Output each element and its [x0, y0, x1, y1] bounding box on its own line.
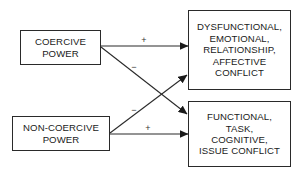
node-label-line: CONFLICT — [215, 67, 264, 78]
node-label-line: NON-COERCIVE — [23, 122, 99, 133]
node-label-line: ISSUE CONFLICT — [199, 145, 280, 156]
node-dysfunctional-conflict: DYSFUNCTIONAL, EMOTIONAL, RELATIONSHIP, … — [188, 10, 291, 90]
node-coercive-power: COERCIVE POWER — [20, 30, 101, 65]
node-label-line: TASK, — [226, 123, 254, 134]
node-label-line: AFFECTIVE — [213, 56, 267, 67]
node-functional-conflict: FUNCTIONAL, TASK, COGNITIVE, ISSUE CONFL… — [188, 101, 291, 167]
node-label-line: EMOTIONAL, — [209, 33, 269, 44]
edge-sign-noncoercive-functional: + — [145, 124, 150, 133]
node-label-line: COGNITIVE, — [211, 134, 267, 145]
edge-sign-coercive-dysfunctional: + — [141, 36, 146, 45]
edge-coercive-to-functional — [101, 47, 187, 114]
node-label-line: DYSFUNCTIONAL, — [197, 21, 282, 32]
node-non-coercive-power: NON-COERCIVE POWER — [12, 116, 110, 151]
node-label-line: RELATIONSHIP, — [203, 44, 275, 55]
node-label-line: FUNCTIONAL, — [207, 111, 272, 122]
edge-sign-noncoercive-dysfunctional: − — [131, 106, 136, 115]
node-label-line: POWER — [43, 134, 80, 145]
edge-sign-coercive-functional: − — [131, 63, 136, 72]
node-label-line: POWER — [42, 48, 79, 59]
node-label-line: COERCIVE — [35, 36, 86, 47]
